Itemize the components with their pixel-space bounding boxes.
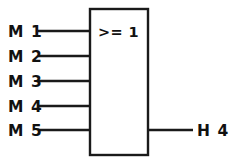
input-label-m1: M 1 [8,23,43,41]
diagram-canvas: >= 1 M 1 M 2 M 3 M 4 M 5 H 4 [0,0,240,167]
input-labels: M 1 M 2 M 3 M 4 M 5 [8,23,43,140]
output-label-h4: H 4 [197,122,229,140]
output-labels: H 4 [197,122,229,140]
input-label-m3: M 3 [8,73,43,91]
input-label-m4: M 4 [8,98,43,116]
input-wires [38,31,90,130]
logic-gate-diagram: >= 1 M 1 M 2 M 3 M 4 M 5 H 4 [0,0,240,167]
or-gate-symbol-label: >= 1 [98,24,139,40]
input-label-m2: M 2 [8,48,43,66]
input-label-m5: M 5 [8,122,43,140]
